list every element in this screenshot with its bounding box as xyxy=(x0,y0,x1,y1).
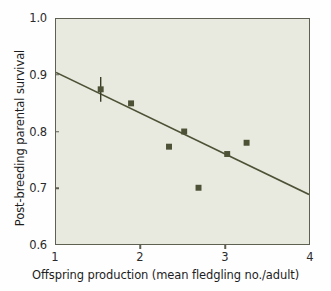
y-axis-tick-label: 0.7 xyxy=(29,181,47,195)
y-axis-tick-label: 0.8 xyxy=(29,125,47,139)
y-axis: Post-breeding parental survival 1.00.90.… xyxy=(0,0,55,291)
plot-canvas xyxy=(56,19,309,244)
x-axis-tick-label: 3 xyxy=(221,250,228,264)
y-axis-tick-label: 1.0 xyxy=(29,11,47,25)
data-point-marker xyxy=(166,144,172,150)
x-axis-tick-mark xyxy=(139,245,141,249)
y-axis-tick-mark xyxy=(55,131,59,133)
y-axis-tick-label: 0.6 xyxy=(29,238,47,252)
data-point-marker xyxy=(224,151,230,157)
x-axis-tick-label: 2 xyxy=(136,250,143,264)
chart-figure: Post-breeding parental survival 1.00.90.… xyxy=(0,0,331,291)
data-markers xyxy=(98,77,250,191)
data-point-marker xyxy=(98,86,104,92)
data-point-marker xyxy=(128,100,134,106)
data-point-marker xyxy=(181,129,187,135)
data-point-marker xyxy=(196,185,202,191)
plot-area xyxy=(55,18,310,245)
x-axis-tick-label: 4 xyxy=(306,250,313,264)
x-axis-tick-label: 1 xyxy=(51,250,58,264)
y-axis-tick-label: 0.9 xyxy=(29,68,47,82)
y-axis-tick-mark xyxy=(55,74,59,76)
x-axis-tick-mark xyxy=(224,245,226,249)
x-axis-label: Offspring production (mean fledgling no.… xyxy=(0,268,331,282)
y-axis-label: Post-breeding parental survival xyxy=(13,38,27,238)
y-axis-tick-mark xyxy=(55,188,59,190)
data-point-marker xyxy=(244,140,250,146)
